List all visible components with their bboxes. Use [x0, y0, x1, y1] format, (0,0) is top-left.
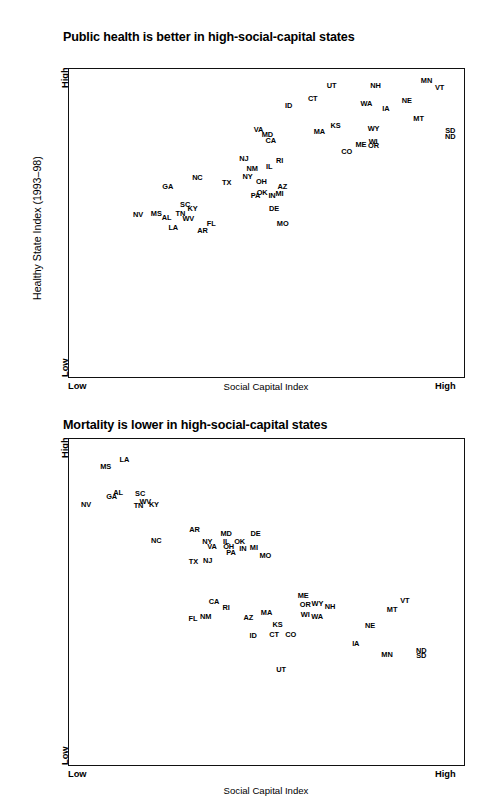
chart-block-public-health: Public health is better in high-social-c…: [0, 0, 490, 400]
scatter-point-label: GA: [162, 182, 173, 191]
scatter-point-label: NH: [325, 601, 335, 610]
scatter-point-label: KY: [188, 203, 198, 212]
scatter-point-label: MT: [413, 114, 423, 123]
chart-2-x-axis-title: Social Capital Index: [224, 785, 309, 796]
chart-1-x-low-label: Low: [68, 381, 87, 391]
scatter-point-label: IL: [266, 162, 272, 171]
scatter-point-label: DE: [250, 529, 260, 538]
scatter-point-label: CT: [308, 94, 318, 103]
scatter-point-label: WY: [312, 599, 324, 608]
scatter-point-label: CO: [285, 629, 296, 638]
scatter-point-label: MN: [421, 76, 432, 85]
scatter-point-label: CA: [209, 597, 219, 606]
scatter-point-label: WV: [182, 213, 194, 222]
chart-1-plot-area: UTNHMNVTCTNEWAIDIAMTKSWYVAMASDMDNDCAWIME…: [68, 68, 465, 378]
scatter-point-label: IA: [382, 103, 389, 112]
scatter-point-label: NV: [133, 209, 143, 218]
scatter-point-label: IN: [268, 191, 275, 200]
scatter-point-label: ID: [285, 100, 292, 109]
scatter-point-label: UT: [327, 81, 337, 90]
scatter-point-label: TX: [189, 556, 198, 565]
scatter-point-label: NC: [151, 536, 161, 545]
chart-1-y-axis-title: Healthy State Index (1993–98): [31, 156, 43, 300]
scatter-point-label: WY: [368, 124, 380, 133]
scatter-point-label: LA: [119, 454, 129, 463]
scatter-point-label: AR: [197, 226, 207, 235]
scatter-point-label: ME: [355, 140, 366, 149]
scatter-point-label: CA: [266, 135, 276, 144]
scatter-point-label: MA: [261, 607, 272, 616]
scatter-point-label: CT: [269, 630, 279, 639]
scatter-point-label: KS: [331, 120, 341, 129]
scatter-point-label: PA: [251, 190, 261, 199]
scatter-point-label: KS: [273, 620, 283, 629]
scatter-point-label: AZ: [244, 612, 254, 621]
scatter-point-label: NV: [81, 499, 91, 508]
scatter-point-label: CO: [341, 146, 352, 155]
scatter-point-label: NE: [365, 621, 375, 630]
scatter-point-label: NJ: [239, 154, 248, 163]
scatter-point-label: OR: [300, 600, 311, 609]
scatter-point-label: MT: [387, 605, 397, 614]
scatter-point-label: AL: [162, 213, 172, 222]
scatter-point-label: NE: [402, 95, 412, 104]
scatter-point-label: WA: [361, 98, 373, 107]
scatter-point-label: VA: [207, 541, 217, 550]
scatter-point-label: IN: [239, 543, 246, 552]
scatter-point-label: LA: [168, 223, 178, 232]
chart-1-x-high-label: High: [435, 381, 456, 391]
scatter-point-label: DE: [269, 203, 279, 212]
scatter-point-label: OR: [368, 141, 379, 150]
scatter-point-label: MN: [381, 649, 392, 658]
chart-2-x-high-label: High: [435, 769, 456, 779]
scatter-point-label: VT: [400, 596, 409, 605]
scatter-point-label: MO: [277, 219, 289, 228]
scatter-point-label: MS: [100, 462, 111, 471]
scatter-point-label: MS: [151, 209, 162, 218]
scatter-point-label: NC: [192, 172, 202, 181]
scatter-point-label: MI: [250, 542, 258, 551]
scatter-point-label: VT: [435, 83, 444, 92]
scatter-point-label: OH: [256, 177, 267, 186]
scatter-point-label: UT: [276, 664, 286, 673]
chart-1-x-axis-title: Social Capital Index: [224, 381, 309, 392]
scatter-point-label: FL: [207, 219, 216, 228]
chart-2-title: Mortality is lower in high-social-capita…: [63, 418, 327, 432]
scatter-point-label: NY: [242, 172, 252, 181]
scatter-point-label: FL: [189, 613, 198, 622]
scatter-point-label: TN: [134, 501, 144, 510]
chart-2-x-low-label: Low: [68, 769, 87, 779]
scatter-point-label: RI: [223, 602, 230, 611]
scatter-point-label: MA: [314, 127, 325, 136]
scatter-point-label: PA: [226, 547, 236, 556]
chart-block-mortality: Mortality is lower in high-social-capita…: [0, 400, 490, 801]
scatter-point-label: NH: [370, 80, 380, 89]
scatter-point-label: MO: [259, 551, 271, 560]
scatter-point-label: RI: [276, 156, 283, 165]
scatter-point-label: WA: [311, 612, 323, 621]
scatter-point-label: AR: [189, 524, 199, 533]
scatter-point-label: GA: [106, 492, 117, 501]
scatter-point-label: NM: [200, 611, 211, 620]
scatter-point-label: TX: [222, 178, 231, 187]
scatter-point-label: MI: [276, 188, 284, 197]
scatter-point-label: ND: [445, 131, 455, 140]
scatter-point-label: ME: [298, 590, 309, 599]
scatter-point-label: WI: [301, 609, 310, 618]
scatter-point-label: SD: [416, 650, 426, 659]
scatter-point-label: NJ: [203, 556, 212, 565]
scatter-point-label: NM: [247, 163, 258, 172]
scatter-point-label: KY: [149, 500, 159, 509]
chart-2-plot-area: LAMSALSCGAWVNVKYTNARMDDENCNYILOKVAOHINMI…: [68, 438, 465, 766]
scatter-point-label: IA: [352, 639, 359, 648]
scatter-point-label: ID: [249, 631, 256, 640]
chart-1-title: Public health is better in high-social-c…: [63, 30, 355, 44]
